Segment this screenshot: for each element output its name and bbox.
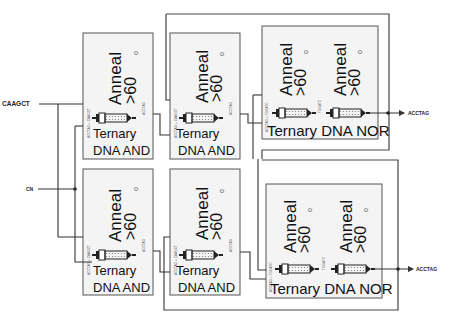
output-label-1: ACCTAG <box>408 110 429 116</box>
gate-text: ACCTAG <box>229 238 233 252</box>
gate-text: TGGATC <box>318 99 322 113</box>
gate-text: DNA AND <box>178 143 235 158</box>
input-strand-label: ACCTAG + CAAGCT <box>87 108 91 138</box>
nor-gate-2: Anneal >60 o Anneal >60 o ACCTAG + TGGAT… <box>266 184 393 298</box>
nor-gate-1: Anneal >60 o Anneal >60 o ACCTAG + TGGAT… <box>262 26 390 139</box>
gate-text: >60 <box>296 226 313 253</box>
gate-text: ACCTAG <box>229 101 233 115</box>
gate-text: >60 <box>292 69 309 96</box>
gate-text: o <box>132 187 139 191</box>
input-label-cn: CN <box>26 186 34 192</box>
temp-label: >60 <box>122 77 139 104</box>
gate-text: o <box>218 189 225 193</box>
and-gate-2: Anneal >60 o ACCTAG + CAAGCT ACCTAG Tern… <box>83 169 153 295</box>
ternary-dna-circuit-diagram: Anneal >60 o ACCTAG + CAAGCT ACCTAG Tern… <box>0 0 451 328</box>
gate-text: >60 <box>352 226 369 253</box>
gate-text: >60 <box>208 75 225 102</box>
input-label-caagct: CAAGCT <box>2 100 30 107</box>
gate-type-line2: DNA AND <box>93 143 150 158</box>
gate-text: Ternary <box>93 263 137 278</box>
gate-text: DNA AND <box>178 280 235 295</box>
and-gate-1: Anneal >60 o ACCTAG + CAAGCT ACCTAG Tern… <box>83 33 153 159</box>
gate-type-label: Ternary DNA NOR <box>270 280 393 297</box>
gate-text: o <box>302 50 309 54</box>
gate-text: o <box>218 52 225 56</box>
gate-type-label: Ternary DNA NOR <box>267 122 390 139</box>
degree-symbol: o <box>132 51 139 55</box>
gate-text: DNA AND <box>93 280 150 295</box>
gate-text: >60 <box>208 213 225 240</box>
gate-text: >60 <box>346 69 363 96</box>
output-label-2: ACCTAG <box>416 266 437 272</box>
gate-type-line1: Ternary <box>93 126 137 141</box>
gate-text: TGGATC <box>322 256 326 270</box>
gate-text: Ternary <box>176 126 220 141</box>
gate-text: Ternary <box>176 263 220 278</box>
and-gate-4: Anneal >60 o ACCTAG + CAAGCT ACCTAG Tern… <box>170 169 240 295</box>
and-gate-3: Anneal >60 o ACCTAG + CAAGCT ACCTAG Tern… <box>170 33 240 159</box>
output-strand-label: ACCTAG <box>142 101 146 115</box>
gate-text: ACCTAG <box>142 238 146 252</box>
gate-text: o <box>362 208 369 212</box>
gate-text: ACCTAG + CAAGCT <box>87 245 91 275</box>
gate-text: o <box>306 208 313 212</box>
gate-text: o <box>356 50 363 54</box>
gate-text: >60 <box>122 213 139 240</box>
